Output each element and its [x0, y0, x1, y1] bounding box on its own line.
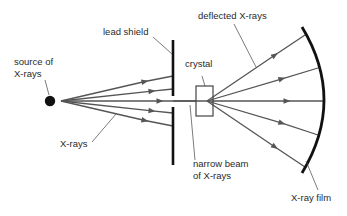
label-deflected: deflected X-rays [198, 10, 267, 22]
label-source-line1: source of [14, 56, 53, 68]
leader-crystal [202, 76, 205, 86]
diagram-canvas [0, 0, 347, 216]
deflected-ray-1 [207, 35, 305, 101]
label-source: source of X-rays [14, 56, 53, 80]
label-x-rays: X-rays [60, 138, 87, 150]
leader-source [45, 80, 49, 95]
leader-x-rays [92, 114, 116, 142]
deflected-ray-2 [207, 68, 318, 101]
label-source-line2: X-rays [14, 68, 53, 80]
deflected-rays [207, 35, 324, 167]
deflected-ray-4 [207, 101, 318, 135]
incident-ray-5 [61, 101, 173, 126]
label-narrow-beam: narrow beam of X-rays [193, 158, 248, 182]
label-film: X-ray film [291, 192, 331, 204]
incident-ray-1 [61, 76, 173, 101]
label-narrow-beam-line1: narrow beam [193, 158, 248, 170]
leader-narrow-beam [190, 105, 195, 160]
incident-ray-4 [61, 101, 173, 113]
incident-ray-2 [61, 89, 173, 101]
leader-film [306, 161, 318, 190]
xray-film-arc [302, 27, 324, 173]
label-crystal: crystal [185, 58, 212, 70]
label-narrow-beam-line2: of X-rays [193, 170, 248, 182]
xray-diffraction-diagram: source of X-rays lead shield X-rays crys… [0, 0, 347, 216]
xray-source-dot [45, 96, 55, 106]
leader-deflected [234, 24, 256, 67]
label-lead-shield: lead shield [103, 26, 148, 38]
leader-lead-shield [153, 37, 172, 54]
